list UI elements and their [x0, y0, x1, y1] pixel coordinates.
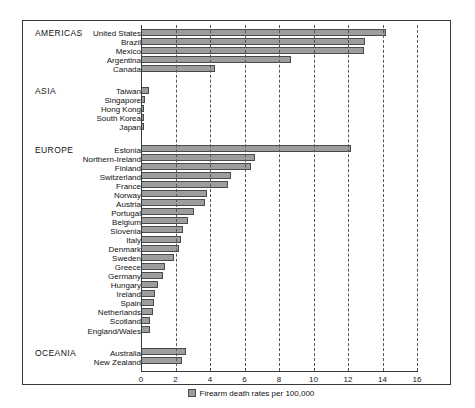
x-tick-label: 16 [407, 375, 427, 384]
x-axis-line [141, 371, 418, 372]
x-tick-label: 0 [131, 375, 151, 384]
category-label: Greece [115, 263, 141, 272]
bar [141, 145, 351, 152]
legend-label: Firearm death rates per 100,000 [200, 389, 315, 398]
category-label: Taiwan [116, 87, 141, 96]
category-label: Spain [121, 299, 141, 308]
x-tick-label: 14 [373, 375, 393, 384]
category-label: Canada [113, 65, 141, 74]
x-tick-label: 6 [235, 375, 255, 384]
category-label: Portugal [111, 209, 141, 218]
category-label: Belgium [112, 218, 141, 227]
bar [141, 181, 228, 188]
bar [141, 308, 153, 315]
category-label: Estonia [114, 146, 141, 155]
category-label: Ireland [117, 290, 141, 299]
chart-frame: United StatesBrazilMexicoArgentinaCanada… [22, 20, 451, 385]
gridline [210, 25, 211, 371]
bar [141, 154, 255, 161]
plot-area: United StatesBrazilMexicoArgentinaCanada… [23, 21, 450, 384]
category-label: Brazil [121, 38, 141, 47]
category-label: Germany [108, 272, 141, 281]
category-label: New Zealand [94, 358, 141, 367]
x-tick-label: 8 [269, 375, 289, 384]
category-label: Hungary [111, 281, 141, 290]
bar [141, 190, 207, 197]
category-label: France [116, 182, 141, 191]
bar [141, 29, 386, 36]
x-tick-label: 2 [166, 375, 186, 384]
bar [141, 254, 174, 261]
region-label-asia: ASIA [35, 86, 56, 96]
category-label: Northern-Ireland [83, 155, 141, 164]
gridline [176, 25, 177, 371]
bar [141, 317, 150, 324]
category-label: Italy [126, 236, 141, 245]
category-label: Hong Kong [101, 105, 141, 114]
bar [141, 290, 155, 297]
category-label: Mexico [116, 47, 141, 56]
gridline [279, 25, 280, 371]
bar [141, 199, 205, 206]
category-label: Argentina [107, 56, 141, 65]
gridline [348, 25, 349, 371]
y-axis-line [141, 25, 142, 371]
category-label: Scotland [110, 317, 141, 326]
x-tick-label: 10 [304, 375, 324, 384]
bar [141, 281, 158, 288]
gridline [383, 25, 384, 371]
category-label: England/Wales [87, 327, 141, 336]
category-label: Sweden [112, 254, 141, 263]
category-label: Switzerland [100, 173, 141, 182]
bar [141, 226, 183, 233]
region-label-americas: AMERICAS [35, 28, 83, 38]
bar [141, 65, 215, 72]
category-label: United States [93, 29, 141, 38]
bar [141, 208, 194, 215]
category-label: Austria [116, 200, 141, 209]
category-label: Australia [110, 349, 141, 358]
bar [141, 87, 149, 94]
category-label: Slovenia [110, 227, 141, 236]
chart-legend: Firearm death rates per 100,000 [188, 389, 315, 398]
x-tick-label: 4 [200, 375, 220, 384]
bar [141, 163, 251, 170]
category-label: Japan [119, 123, 141, 132]
category-label: Singapore [105, 96, 141, 105]
legend-swatch-icon [188, 389, 196, 397]
category-label: Netherlands [98, 308, 141, 317]
category-label: Finland [115, 164, 141, 173]
bar [141, 272, 163, 279]
region-label-europe: EUROPE [35, 145, 73, 155]
gridline [245, 25, 246, 371]
bars-plot-column: 0246810121416Firearm death rates per 100… [141, 21, 436, 384]
category-label: Denmark [109, 245, 141, 254]
x-tick-label: 12 [338, 375, 358, 384]
bar [141, 326, 150, 333]
bar [141, 47, 364, 54]
category-label: Norway [114, 191, 141, 200]
gridline [417, 25, 418, 371]
bar [141, 217, 188, 224]
bar [141, 263, 165, 270]
category-label: South Korea [97, 114, 141, 123]
region-label-oceania: OCEANIA [35, 348, 76, 358]
bar [141, 56, 291, 63]
bar [141, 245, 179, 252]
bar [141, 348, 186, 355]
gridline [314, 25, 315, 371]
bar [141, 172, 231, 179]
bar [141, 299, 154, 306]
